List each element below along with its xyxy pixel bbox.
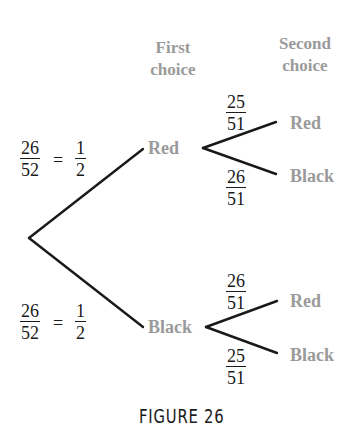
- prob-black-black: 25 51: [226, 347, 246, 387]
- prob-black-red: 26 51: [226, 272, 246, 312]
- denominator: 2: [76, 322, 85, 342]
- denominator: 52: [21, 322, 39, 342]
- header-second-choice: Second choice: [268, 33, 342, 77]
- prob-red-black: 26 51: [226, 168, 246, 208]
- header-first-choice-line2: choice: [142, 59, 204, 81]
- numerator: 26: [20, 302, 40, 322]
- header-first-choice-line1: First: [142, 37, 204, 59]
- numerator: 26: [20, 139, 40, 159]
- figure-caption: FIGURE 26: [0, 405, 363, 427]
- equals-sign: =: [53, 314, 63, 332]
- denominator: 2: [76, 159, 85, 179]
- denominator: 52: [21, 159, 39, 179]
- prob-root-red: 26 52: [20, 139, 40, 179]
- header-second-choice-line1: Second: [268, 33, 342, 55]
- numerator: 1: [75, 302, 86, 322]
- node-first-black: Black: [148, 318, 192, 336]
- node-first-red: Red: [148, 139, 179, 157]
- tree-diagram: First choice Second choice 26 52 = 1 2 2…: [0, 0, 363, 434]
- denominator: 51: [227, 367, 245, 387]
- numerator: 25: [226, 93, 246, 113]
- prob-root-black-simplified: 1 2: [75, 302, 86, 342]
- prob-root-black: 26 52: [20, 302, 40, 342]
- denominator: 51: [227, 292, 245, 312]
- numerator: 26: [226, 168, 246, 188]
- prob-red-red: 25 51: [226, 93, 246, 133]
- header-first-choice: First choice: [142, 37, 204, 81]
- equals-sign: =: [53, 151, 63, 169]
- node-second-black-after-black: Black: [290, 346, 334, 364]
- branch-root-to-black: [29, 238, 143, 327]
- prob-root-red-simplified: 1 2: [75, 139, 86, 179]
- node-second-black-after-red: Black: [290, 167, 334, 185]
- node-second-red-after-black: Red: [290, 292, 321, 310]
- denominator: 51: [227, 188, 245, 208]
- numerator: 25: [226, 347, 246, 367]
- numerator: 1: [75, 139, 86, 159]
- header-second-choice-line2: choice: [268, 55, 342, 77]
- branch-root-to-red: [29, 149, 143, 238]
- figure-caption-text: FIGURE 26: [139, 405, 224, 427]
- denominator: 51: [227, 113, 245, 133]
- numerator: 26: [226, 272, 246, 292]
- node-second-red-after-red: Red: [290, 114, 321, 132]
